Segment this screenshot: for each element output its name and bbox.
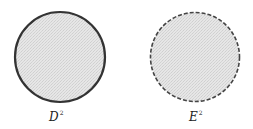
label-D2-superscript: 2 <box>60 109 64 116</box>
open-disk-E2 <box>151 13 240 102</box>
label-D2: D2 <box>49 110 63 123</box>
label-D2-base: D <box>49 110 59 124</box>
diagram-canvas <box>0 0 253 129</box>
label-E2-base: E <box>189 110 198 124</box>
closed-disk-D2 <box>15 12 105 102</box>
label-E2-superscript: 2 <box>199 109 203 116</box>
label-E2: E2 <box>189 110 203 123</box>
